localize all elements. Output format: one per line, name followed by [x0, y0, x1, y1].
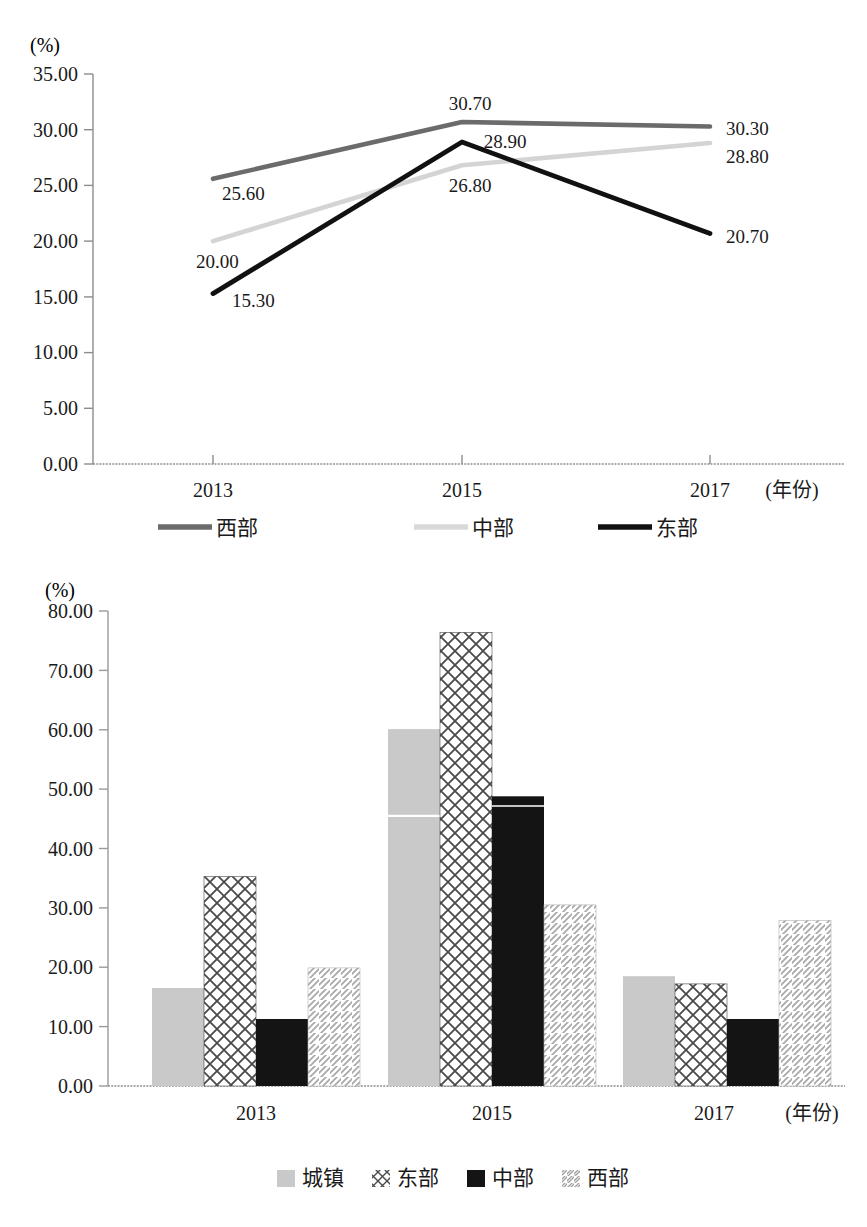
line-x-label-2013: 2013	[193, 479, 233, 501]
bar-2017-dongbu[interactable]	[675, 984, 727, 1086]
bar-y-tick-6: 60.00	[48, 719, 93, 741]
point-label-dongbu-2015: 28.90	[484, 131, 527, 152]
point-label-xibu-2017: 30.30	[726, 118, 769, 139]
bar-y-tick-1: 10.00	[48, 1016, 93, 1038]
bar-group-2017	[623, 920, 831, 1086]
legend-label-chengzhen: 城镇	[302, 1166, 344, 1190]
line-chart-legend: 西部 中部 东部	[158, 516, 698, 540]
line-chart-canvas: (%) 0.00 5.00 10.00 15.00 20.00 25.00 30…	[0, 0, 867, 560]
bar-2017-chengzhen[interactable]	[623, 976, 675, 1086]
bar-x-axis-title: (年份)	[785, 1102, 838, 1125]
legend-label-dongbu: 东部	[656, 516, 698, 540]
legend-item-bar-zhongbu[interactable]: 中部	[467, 1166, 534, 1190]
point-label-dongbu-2017: 20.70	[726, 226, 769, 247]
point-label-zhongbu-2017: 28.80	[726, 146, 769, 167]
point-label-zhongbu-2013: 20.00	[196, 251, 239, 272]
bar-y-tick-4: 40.00	[48, 838, 93, 860]
bar-2013-zhongbu[interactable]	[256, 1019, 308, 1086]
line-y-tick-1: 5.00	[43, 397, 78, 419]
point-label-dongbu-2013: 15.30	[232, 290, 275, 311]
bar-2017-xibu[interactable]	[779, 920, 831, 1086]
bar-chart-y-ticks: 0.00 10.00 20.00 30.00 40.00 50.00 60.00…	[48, 600, 108, 1097]
swatch-diagonal-hatch-icon	[562, 1170, 580, 1187]
line-y-tick-5: 25.00	[33, 174, 78, 196]
line-y-tick-3: 15.00	[33, 286, 78, 308]
bar-2015-chengzhen[interactable]	[388, 729, 440, 1086]
bar-x-label-2015: 2015	[472, 1102, 512, 1124]
legend-label-bar-zhongbu: 中部	[492, 1166, 534, 1190]
bar-y-tick-8: 80.00	[48, 600, 93, 622]
line-chart-unit-label: (%)	[30, 34, 60, 57]
line-x-label-2017: 2017	[690, 479, 730, 501]
bar-y-tick-0: 0.00	[58, 1075, 93, 1097]
point-label-xibu-2013: 25.60	[222, 183, 265, 204]
legend-item-zhongbu[interactable]: 中部	[414, 516, 514, 540]
line-chart-x-ticks	[213, 455, 710, 464]
bar-y-tick-7: 70.00	[48, 660, 93, 682]
bar-chart-legend: 城镇 东部 中部 西部	[277, 1166, 629, 1190]
swatch-solid-gray-icon	[277, 1170, 295, 1187]
line-y-tick-4: 20.00	[33, 230, 78, 252]
bar-2013-xibu[interactable]	[308, 968, 360, 1086]
bar-y-tick-3: 30.00	[48, 897, 93, 919]
legend-label-bar-xibu: 西部	[587, 1166, 629, 1190]
bar-2017-zhongbu[interactable]	[727, 1019, 779, 1086]
line-x-label-2015: 2015	[442, 479, 482, 501]
bar-chart-canvas: (%) 0.00 10.00 20.00 30.00 40.00 50.00 6…	[0, 560, 867, 1227]
bar-group-2013	[152, 876, 360, 1086]
bar-2015-zhongbu[interactable]	[492, 796, 544, 1086]
bar-chart-figure: (%) 0.00 10.00 20.00 30.00 40.00 50.00 6…	[0, 560, 867, 1227]
line-y-tick-2: 10.00	[33, 341, 78, 363]
line-x-axis-title: (年份)	[765, 479, 818, 502]
legend-label-xibu: 西部	[216, 516, 258, 540]
bar-x-label-2017: 2017	[694, 1102, 734, 1124]
legend-label-zhongbu: 中部	[472, 516, 514, 540]
bar-2015-dongbu[interactable]	[440, 632, 492, 1086]
bar-2013-dongbu[interactable]	[204, 876, 256, 1086]
swatch-solid-black-icon	[467, 1170, 485, 1187]
point-label-zhongbu-2015: 26.80	[449, 175, 492, 196]
legend-item-bar-xibu[interactable]: 西部	[562, 1166, 629, 1190]
line-y-tick-7: 35.00	[33, 63, 78, 85]
bar-y-tick-2: 20.00	[48, 956, 93, 978]
legend-item-chengzhen[interactable]: 城镇	[277, 1166, 344, 1190]
bar-y-tick-5: 50.00	[48, 778, 93, 800]
line-chart-figure: (%) 0.00 5.00 10.00 15.00 20.00 25.00 30…	[0, 0, 867, 560]
line-chart-y-ticks: 0.00 5.00 10.00 15.00 20.00 25.00 30.00 …	[33, 63, 93, 475]
bar-group-2015	[388, 632, 596, 1086]
bar-x-label-2013: 2013	[236, 1102, 276, 1124]
legend-item-dongbu[interactable]: 东部	[598, 516, 698, 540]
legend-item-bar-dongbu[interactable]: 东部	[372, 1166, 439, 1190]
line-y-tick-6: 30.00	[33, 119, 78, 141]
swatch-cross-hatch-icon	[372, 1170, 390, 1187]
legend-label-bar-dongbu: 东部	[397, 1166, 439, 1190]
legend-item-xibu[interactable]: 西部	[158, 516, 258, 540]
line-y-tick-0: 0.00	[43, 453, 78, 475]
bar-chart-unit-label: (%)	[45, 579, 75, 602]
point-label-xibu-2015: 30.70	[449, 93, 492, 114]
bar-2013-chengzhen[interactable]	[152, 988, 204, 1086]
bar-2015-xibu[interactable]	[544, 905, 596, 1086]
